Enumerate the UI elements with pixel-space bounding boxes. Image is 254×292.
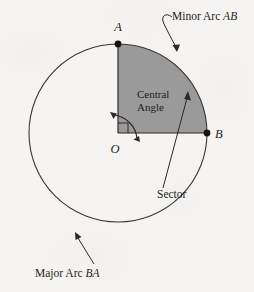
sector-label: Sector bbox=[157, 188, 187, 200]
major-arc-label: Major Arc BA bbox=[35, 267, 100, 280]
major-arc-leader-line bbox=[78, 238, 94, 264]
minor-arc-label-prefix: Minor Arc bbox=[172, 10, 223, 22]
diagram-canvas: A B O Central Angle Minor Arc AB Sector … bbox=[0, 0, 254, 292]
central-angle-label-line1: Central bbox=[137, 88, 169, 100]
point-a-dot bbox=[115, 41, 122, 48]
point-b-label: B bbox=[215, 127, 223, 141]
major-arc-label-points: BA bbox=[85, 267, 100, 279]
point-o-label: O bbox=[110, 142, 119, 156]
circle-geometry-figure: A B O Central Angle Minor Arc AB Sector … bbox=[0, 0, 254, 292]
minor-arc-label: Minor Arc AB bbox=[172, 10, 237, 22]
minor-arc-leader-arrowhead bbox=[173, 45, 181, 53]
point-b-dot bbox=[204, 130, 211, 137]
central-angle-label-line2: Angle bbox=[137, 101, 164, 113]
minor-arc-label-points: AB bbox=[222, 10, 237, 22]
point-a-label: A bbox=[113, 20, 122, 34]
major-arc-label-prefix: Major Arc bbox=[35, 267, 85, 280]
